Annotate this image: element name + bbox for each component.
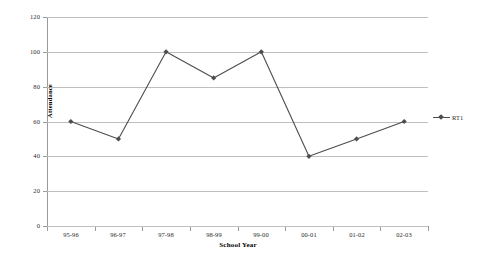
y-axis-tick-label-wrap: 60 [0, 118, 40, 126]
y-axis-tick-label: 100 [30, 48, 40, 55]
y-axis-tick-label: 40 [33, 152, 40, 159]
y-axis-tick-label-wrap: 0 [0, 222, 40, 230]
x-axis-title: School Year [47, 241, 429, 249]
legend-swatch-rt1 [433, 113, 450, 122]
data-point-marker [306, 154, 311, 159]
legend-label-rt1: RT1 [452, 114, 463, 122]
chart-legend: RT1 [433, 113, 463, 122]
y-axis-tick-label-wrap: 20 [0, 187, 40, 195]
series-line [71, 52, 404, 157]
legend-diamond-marker-icon [438, 114, 444, 120]
y-axis-tick-label-wrap: 100 [0, 48, 40, 56]
plot-area [47, 17, 428, 226]
y-axis-tick-label: 120 [30, 13, 40, 20]
y-axis-tick-label-wrap: 80 [0, 83, 40, 91]
data-point-marker [211, 75, 216, 80]
y-axis-title: Attendance [46, 66, 56, 136]
y-axis-tick-label: 0 [37, 222, 40, 229]
y-axis-tick-label: 20 [33, 187, 40, 194]
series-rt1 [47, 17, 428, 226]
data-point-marker [354, 136, 359, 141]
line-chart: 020406080100120 95-9696-9797-9898-9999-0… [0, 0, 480, 256]
y-axis-tick-label-wrap: 40 [0, 152, 40, 160]
y-axis-tick-label-wrap: 120 [0, 13, 40, 21]
y-axis-tick-label: 80 [33, 83, 40, 90]
x-axis-tick-label: 02-03 [374, 231, 434, 239]
data-point-marker [402, 119, 407, 124]
data-point-marker [163, 49, 168, 54]
y-axis-tick-label: 60 [33, 118, 40, 125]
data-point-marker [259, 49, 264, 54]
data-point-marker [68, 119, 73, 124]
data-point-marker [116, 136, 121, 141]
